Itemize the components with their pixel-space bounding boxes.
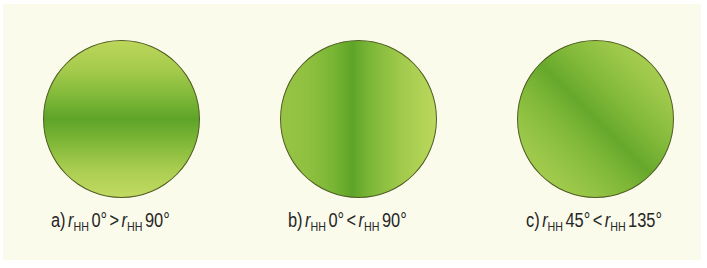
caption-a-val1: 0° (91, 209, 107, 231)
caption-c-val1: 45° (565, 209, 590, 231)
disc-c-diagonal-band (517, 40, 674, 198)
caption-b-var2: r (359, 209, 364, 231)
caption-a-operator: > (110, 209, 120, 231)
caption-c-sub2: HH (610, 219, 625, 234)
caption-a-prefix: a) (51, 209, 66, 231)
caption-b-operator: < (347, 209, 357, 231)
caption-a-val2: 90° (145, 209, 170, 231)
caption-c: c)rHH45°<rHH135° (526, 207, 662, 233)
caption-b-sub2: HH (364, 219, 379, 234)
caption-c-var2: r (605, 209, 610, 231)
caption-a: a)rHH0°>rHH90° (51, 207, 170, 233)
caption-b: b)rHH0°<rHH90° (288, 207, 407, 233)
caption-c-val2: 135° (628, 209, 662, 231)
caption-c-sub1: HH (548, 219, 563, 234)
disc-b-vertical-band (280, 40, 437, 198)
caption-c-prefix: c) (526, 209, 540, 231)
caption-a-sub1: HH (74, 219, 89, 234)
caption-b-val1: 0° (328, 209, 344, 231)
caption-c-operator: < (593, 209, 603, 231)
caption-a-var2: r (122, 209, 127, 231)
caption-b-sub1: HH (311, 219, 326, 234)
caption-b-val2: 90° (382, 209, 407, 231)
disc-a-horizontal-band (43, 40, 200, 198)
caption-a-sub2: HH (127, 219, 142, 234)
caption-b-prefix: b) (288, 209, 303, 231)
